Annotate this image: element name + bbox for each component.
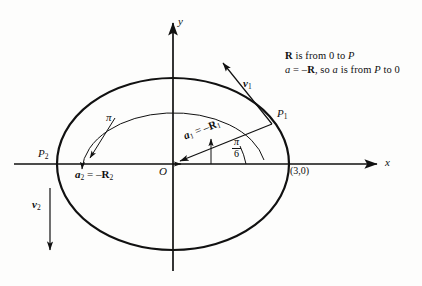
a2-vector xyxy=(90,118,115,158)
x-axis-label: x xyxy=(385,157,390,169)
annotation-line2-so: , so xyxy=(315,64,333,75)
annotation-line-1: R is from 0 to P xyxy=(285,50,400,61)
point-p1-label: P1 xyxy=(277,108,287,121)
pi-over-six-fraction: π 6 xyxy=(232,137,241,159)
v2-subscript: 2 xyxy=(37,203,41,212)
point-p2-subscript: 2 xyxy=(45,152,49,161)
point-p2-label: P2 xyxy=(38,148,48,161)
y-axis-label: y xyxy=(178,16,183,28)
a2-rhs-subscript: 2 xyxy=(109,173,113,182)
point-p1-subscript: 1 xyxy=(284,112,288,121)
diagram-svg xyxy=(0,0,422,286)
point-p1-letter: P xyxy=(277,107,284,119)
v2-label: v2 xyxy=(32,199,41,212)
annotation-line1-p: P xyxy=(348,50,355,61)
annotation-line-2: a = –R, so a is from P to 0 xyxy=(285,64,400,75)
v1-vector xyxy=(223,63,272,124)
pi-over-six-denominator: 6 xyxy=(232,149,241,159)
annotation-line2-to0: to 0 xyxy=(381,64,400,75)
a2-equals: = – xyxy=(84,168,101,180)
vertex-coordinate-label: (3,0) xyxy=(290,166,309,177)
origin-label: O xyxy=(159,166,167,178)
annotation-line2-isfrom: is from xyxy=(338,64,374,75)
a2-equation-label: a2 = –R2 xyxy=(75,169,113,182)
pi-arc-label: π xyxy=(106,112,112,124)
v1-label: v1 xyxy=(243,78,252,91)
annotation-line1-text: is from 0 to xyxy=(293,50,348,61)
annotation-line2-eq: = – xyxy=(290,64,307,75)
annotation-r-symbol: R xyxy=(285,50,293,61)
annotation-line2-r: R xyxy=(307,64,315,75)
pi-over-six-numerator: π xyxy=(232,137,241,147)
figure-canvas: y x O P1 P2 (3,0) v1 v2 a1 = –R1 a2 = –R… xyxy=(0,0,422,286)
v1-subscript: 1 xyxy=(248,82,252,91)
annotation-block: R is from 0 to P a = –R, so a is from P … xyxy=(285,50,400,78)
point-p2-letter: P xyxy=(38,147,45,159)
